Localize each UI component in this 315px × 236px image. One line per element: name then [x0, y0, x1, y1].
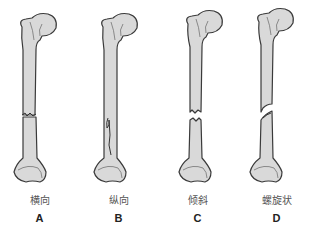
- femur-oblique-fracture: [158, 0, 237, 200]
- femur-longitudinal-fracture: [79, 0, 158, 200]
- panel-letter: B: [79, 212, 158, 224]
- panel-transverse: 横向 A: [0, 0, 79, 236]
- fracture-label-cn: 纵向: [79, 192, 158, 207]
- panel-letter: C: [158, 212, 237, 224]
- femur-transverse-fracture: [0, 0, 79, 200]
- femur-spiral-fracture: [237, 0, 315, 200]
- fracture-label-cn: 横向: [0, 192, 79, 207]
- fracture-label-cn: 螺旋状: [237, 192, 315, 207]
- panel-longitudinal: 纵向 B: [79, 0, 158, 236]
- fracture-label-cn: 倾斜: [158, 192, 237, 207]
- panel-spiral: 螺旋状 D: [237, 0, 315, 236]
- panel-oblique: 倾斜 C: [158, 0, 237, 236]
- panel-letter: A: [0, 212, 79, 224]
- panel-letter: D: [237, 212, 315, 224]
